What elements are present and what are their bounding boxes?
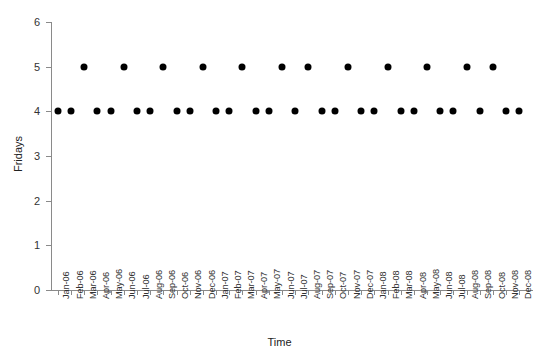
x-tick-mark [493,290,494,295]
x-tick-label: Oct-06 [180,272,190,299]
x-tick-label: Dec-07 [365,270,375,299]
x-tick-mark [295,290,296,295]
y-tick-label: 5 [28,61,40,73]
x-tick-mark [229,290,230,295]
x-tick-mark [308,290,309,295]
x-tick-label: Oct-08 [497,272,507,299]
x-tick-mark [150,290,151,295]
x-tick-label: Feb-07 [233,270,243,299]
x-tick-label: Jan-08 [378,272,388,300]
data-point [279,63,286,70]
data-point [265,108,272,115]
x-tick-label: Jan-06 [61,272,71,300]
x-tick-mark [58,290,59,295]
x-tick-label: Jun-07 [286,272,296,300]
x-tick-label: May-07 [272,269,282,299]
y-tick-mark [46,245,51,246]
y-tick-mark [46,156,51,157]
y-tick-mark [46,67,51,68]
y-tick-label: 1 [28,239,40,251]
y-tick-mark [46,111,51,112]
x-tick-label: Aug-08 [470,270,480,299]
y-axis-title: Fridays [12,124,24,184]
data-point [331,108,338,115]
x-tick-mark [506,290,507,295]
x-tick-mark [216,290,217,295]
x-tick-mark [71,290,72,295]
data-point [344,63,351,70]
x-tick-label: Jun-06 [127,272,137,300]
y-tick-mark [46,290,51,291]
data-point [239,63,246,70]
x-tick-mark [269,290,270,295]
data-point [120,63,127,70]
x-tick-label: Apr-06 [101,272,111,299]
x-tick-label: Jan-07 [220,272,230,300]
data-point [107,108,114,115]
x-tick-mark [401,290,402,295]
x-tick-mark [242,290,243,295]
data-point [173,108,180,115]
y-axis-line [51,22,52,290]
x-tick-label: Jun-08 [444,272,454,300]
data-point [226,108,233,115]
x-tick-mark [322,290,323,295]
x-tick-label: Nov-08 [510,270,520,299]
x-axis-title: Time [0,336,559,348]
x-tick-label: Jul-08 [457,275,467,299]
data-point [94,108,101,115]
data-point [384,63,391,70]
x-tick-mark [361,290,362,295]
x-tick-label: Apr-07 [259,272,269,299]
x-tick-mark [137,290,138,295]
data-point [397,108,404,115]
x-tick-mark [453,290,454,295]
x-tick-mark [163,290,164,295]
data-point [318,108,325,115]
y-tick-label: 2 [28,195,40,207]
x-tick-label: Feb-06 [75,270,85,299]
x-tick-label: Nov-06 [193,270,203,299]
data-point [516,108,523,115]
x-tick-label: Mar-06 [88,270,98,299]
y-tick-label: 6 [28,16,40,28]
x-tick-mark [480,290,481,295]
x-tick-mark [84,290,85,295]
y-tick-mark [46,22,51,23]
data-point [305,63,312,70]
y-tick-label: 0 [28,284,40,296]
data-point [160,63,167,70]
data-point [424,63,431,70]
y-tick-mark [46,201,51,202]
x-tick-label: Nov-07 [352,270,362,299]
data-point [292,108,299,115]
x-tick-mark [177,290,178,295]
x-tick-mark [440,290,441,295]
x-tick-label: May-06 [114,269,124,299]
x-tick-mark [282,290,283,295]
data-point [147,108,154,115]
x-tick-mark [414,290,415,295]
x-tick-label: Oct-07 [338,272,348,299]
x-tick-mark [111,290,112,295]
x-tick-label: Jul-06 [141,275,151,299]
x-tick-mark [335,290,336,295]
x-tick-mark [374,290,375,295]
x-tick-mark [97,290,98,295]
data-point [410,108,417,115]
data-point [358,108,365,115]
x-tick-mark [519,290,520,295]
x-tick-label: Feb-08 [391,270,401,299]
data-point [133,108,140,115]
x-tick-label: Aug-06 [154,270,164,299]
data-point [463,63,470,70]
x-tick-mark [348,290,349,295]
x-tick-label: Mar-07 [246,270,256,299]
scatter-chart: 0123456 Jan-06Feb-06Mar-06Apr-06May-06Ju… [0,0,559,362]
x-tick-label: Sep-07 [325,270,335,299]
x-tick-label: Sep-06 [167,270,177,299]
x-tick-label: Dec-08 [523,270,533,299]
data-point [450,108,457,115]
data-point [81,63,88,70]
x-tick-mark [203,290,204,295]
